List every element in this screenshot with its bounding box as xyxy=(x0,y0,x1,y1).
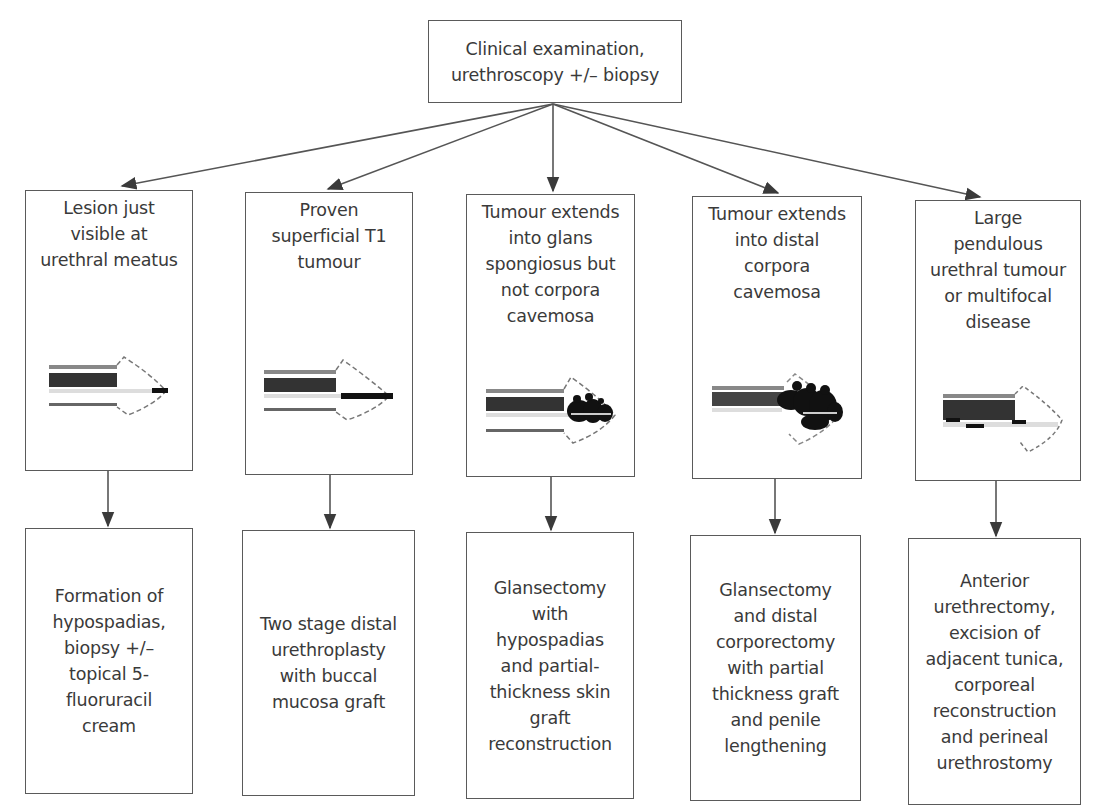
stage-label: Tumour extends into glans spongiosus but… xyxy=(482,199,620,329)
treatment-label: Formation of hypospadias, biopsy +/– top… xyxy=(52,583,165,739)
treatment-label: Anterior urethrectomy, excision of adjac… xyxy=(926,568,1064,776)
stage-label: Proven superficial T1 tumour xyxy=(272,197,387,275)
distal-corpora-tumour-icon xyxy=(707,372,847,452)
urethra-meatus-lesion-icon xyxy=(44,353,174,423)
treatment-box-glansectomy-hypospadias: Glansectomy with hypospadias and partial… xyxy=(466,532,634,799)
stage-box-glans-spongiosus: Tumour extends into glans spongiosus but… xyxy=(466,194,635,477)
treatment-box-two-stage-urethroplasty: Two stage distal urethroplasty with bucc… xyxy=(242,530,415,796)
stage-box-multifocal: Large pendulous urethral tumour or multi… xyxy=(915,200,1081,481)
root-label: Clinical examination, urethroscopy +/– b… xyxy=(451,36,659,88)
root-box-clinical-examination: Clinical examination, urethroscopy +/– b… xyxy=(428,20,682,103)
treatment-label: Two stage distal urethroplasty with bucc… xyxy=(260,611,397,715)
glans-spongiosus-tumour-icon xyxy=(481,375,621,450)
stage-label: Large pendulous urethral tumour or multi… xyxy=(930,205,1066,335)
treatment-box-glansectomy-corporectomy: Glansectomy and distal corporectomy with… xyxy=(690,535,861,801)
multifocal-tumour-icon xyxy=(928,386,1068,461)
stage-box-superficial-t1: Proven superficial T1 tumour xyxy=(245,192,413,475)
stage-label: Tumour extends into distal corpora cavem… xyxy=(708,201,846,305)
treatment-box-hypospadias-formation: Formation of hypospadias, biopsy +/– top… xyxy=(25,528,193,794)
arrow-root-to-stage-2 xyxy=(328,104,553,189)
arrow-root-to-stage-5 xyxy=(553,104,980,197)
stage-box-distal-corpora: Tumour extends into distal corpora cavem… xyxy=(692,196,862,479)
arrow-root-to-stage-4 xyxy=(553,104,778,193)
treatment-label: Glansectomy with hypospadias and partial… xyxy=(488,575,612,757)
treatment-label: Glansectomy and distal corporectomy with… xyxy=(712,577,839,759)
arrow-root-to-stage-1 xyxy=(122,104,553,186)
urethra-superficial-tumour-icon xyxy=(259,358,399,428)
treatment-box-anterior-urethrectomy: Anterior urethrectomy, excision of adjac… xyxy=(908,538,1081,805)
stage-box-meatus-lesion: Lesion just visible at urethral meatus xyxy=(25,190,193,471)
stage-label: Lesion just visible at urethral meatus xyxy=(40,195,178,273)
